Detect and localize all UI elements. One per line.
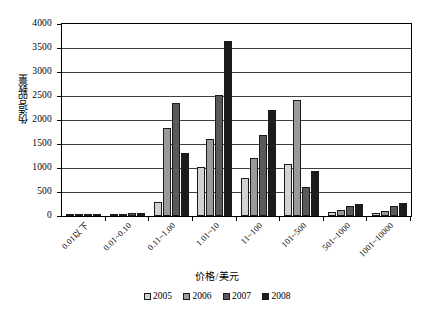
bar-2007-11~100 — [259, 135, 267, 216]
bar-2008-101~500 — [311, 171, 319, 216]
bar-2005-501~1000 — [328, 212, 336, 216]
bar-2005-0.11~1.00 — [154, 202, 162, 216]
chart-legend: 2005200620072008 — [0, 291, 434, 301]
bar-group — [149, 24, 193, 216]
bar-2007-1.01~10 — [215, 95, 223, 216]
bar-2008-0.01~0.10 — [137, 213, 145, 216]
legend-swatch-icon — [262, 293, 269, 300]
bar-2005-11~100 — [241, 178, 249, 216]
x-axis-tick-label: 0.01~0.10 — [102, 221, 134, 253]
legend-item-2007[interactable]: 2007 — [223, 291, 252, 301]
bar-2005-0.01以下 — [66, 214, 74, 216]
bar-group — [367, 24, 411, 216]
legend-item-2005[interactable]: 2005 — [144, 291, 173, 301]
bar-2006-0.01~0.10 — [119, 214, 127, 216]
bar-group — [106, 24, 150, 216]
legend-label: 2008 — [272, 291, 291, 301]
bar-2007-0.01~0.10 — [128, 213, 136, 216]
bar-2008-1.01~10 — [224, 41, 232, 216]
legend-label: 2005 — [153, 291, 172, 301]
bar-2006-0.11~1.00 — [163, 128, 171, 216]
bar-2008-501~1000 — [355, 204, 363, 216]
bar-2008-11~100 — [268, 110, 276, 216]
bar-group — [193, 24, 237, 216]
legend-item-2008[interactable]: 2008 — [262, 291, 291, 301]
x-axis-tick-label: 11~100 — [240, 221, 265, 246]
legend-swatch-icon — [144, 293, 151, 300]
bar-2006-101~500 — [293, 100, 301, 216]
x-axis-tick-label: 0.01以下 — [60, 221, 90, 251]
x-axis-title: 价格/美元 — [0, 268, 434, 283]
bar-2005-1.01~10 — [197, 167, 205, 216]
x-axis-tick-label: 1.01~10 — [194, 221, 221, 248]
bar-2007-0.11~1.00 — [172, 103, 180, 216]
x-axis-tick-label: 101~500 — [280, 221, 308, 249]
bar-2006-501~1000 — [337, 210, 345, 216]
bar-2005-0.01~0.10 — [110, 214, 118, 216]
legend-swatch-icon — [223, 293, 230, 300]
bar-2007-501~1000 — [346, 206, 354, 216]
bar-group — [324, 24, 368, 216]
bar-chart-figure: 05001000150020002500300035004000 0.01以下0… — [0, 0, 434, 320]
bar-2008-0.01以下 — [93, 214, 101, 216]
bar-2008-1001~10000 — [399, 203, 407, 216]
bar-2005-101~500 — [284, 164, 292, 216]
bar-group — [62, 24, 106, 216]
bar-2005-1001~10000 — [372, 213, 380, 216]
bar-2008-0.11~1.00 — [181, 153, 189, 216]
bar-2007-101~500 — [302, 187, 310, 216]
x-axis-tick-label: 501~1000 — [320, 221, 351, 252]
y-axis-title: 伪造品数量 — [18, 74, 32, 124]
bar-2006-1.01~10 — [206, 139, 214, 216]
bar-group — [280, 24, 324, 216]
legend-item-2006[interactable]: 2006 — [183, 291, 212, 301]
x-axis-tick-label: 0.11~1.00 — [146, 221, 177, 252]
legend-swatch-icon — [183, 293, 190, 300]
bar-2006-11~100 — [250, 158, 258, 216]
bar-2007-0.01以下 — [84, 214, 92, 216]
bar-2007-1001~10000 — [390, 206, 398, 216]
bar-2006-1001~10000 — [381, 211, 389, 216]
bar-group — [237, 24, 281, 216]
bar-2006-0.01以下 — [75, 214, 83, 216]
bar-series-container — [62, 24, 411, 216]
legend-label: 2006 — [193, 291, 212, 301]
legend-label: 2007 — [232, 291, 251, 301]
